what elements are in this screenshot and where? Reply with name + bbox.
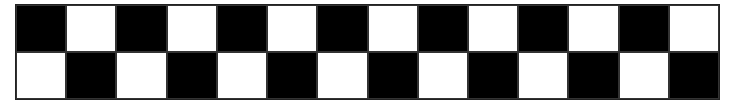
board-cell-black: [317, 5, 367, 52]
board-cell-white: [619, 52, 669, 99]
checkerboard-strip: [15, 4, 720, 100]
board-cell-white: [669, 5, 719, 52]
board-cell-black: [66, 52, 116, 99]
board-cell-white: [368, 5, 418, 52]
board-cell-black: [368, 52, 418, 99]
board-cell-black: [167, 52, 217, 99]
board-cell-white: [317, 52, 367, 99]
board-cell-white: [518, 52, 568, 99]
board-cell-black: [267, 52, 317, 99]
board-cell-black: [418, 5, 468, 52]
board-cell-white: [217, 52, 267, 99]
board-cell-white: [568, 5, 618, 52]
board-cell-white: [16, 52, 66, 99]
board-cell-white: [267, 5, 317, 52]
board-cell-white: [418, 52, 468, 99]
board-cell-black: [468, 52, 518, 99]
board-cell-black: [619, 5, 669, 52]
board-cell-white: [468, 5, 518, 52]
board-cell-black: [116, 5, 166, 52]
board-cell-black: [217, 5, 267, 52]
board-cell-black: [669, 52, 719, 99]
board-cell-white: [167, 5, 217, 52]
board-cell-white: [116, 52, 166, 99]
board-cell-black: [518, 5, 568, 52]
board-cell-black: [16, 5, 66, 52]
board-cell-black: [568, 52, 618, 99]
board-cell-white: [66, 5, 116, 52]
